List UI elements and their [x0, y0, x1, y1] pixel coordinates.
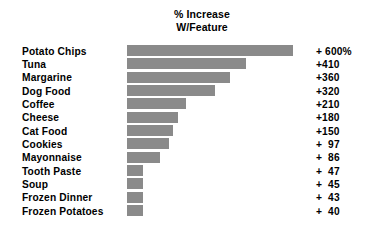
chart-row: Mayonnaise+ 86 — [0, 151, 376, 164]
bar-track — [127, 44, 307, 57]
chart-row: Frozen Potatoes+ 40 — [0, 204, 376, 217]
value-label: + 97 — [316, 139, 340, 150]
bar-track — [127, 204, 307, 217]
category-label: Frozen Dinner — [22, 192, 92, 203]
bar — [127, 205, 143, 216]
chart-row: Tuna+410 — [0, 57, 376, 70]
chart-row: Margarine+360 — [0, 71, 376, 84]
chart-row: Cheese+180 — [0, 111, 376, 124]
bar-track — [127, 84, 307, 97]
category-label: Cookies — [22, 139, 63, 150]
chart-title: % Increase W/Feature — [0, 8, 376, 34]
bar — [127, 178, 143, 189]
category-label: Tooth Paste — [22, 165, 81, 176]
bar — [127, 192, 143, 203]
value-label: +360 — [316, 72, 340, 83]
category-label: Cat Food — [22, 125, 67, 136]
category-label: Cheese — [22, 112, 59, 123]
bar-track — [127, 97, 307, 110]
chart-row: Frozen Dinner+ 43 — [0, 191, 376, 204]
bar-track — [127, 124, 307, 137]
bar — [127, 112, 178, 123]
value-label: +150 — [316, 125, 340, 136]
category-label: Potato Chips — [22, 45, 87, 56]
bar — [127, 85, 215, 96]
chart-rows: Potato Chips+ 600%Tuna+410Margarine+360D… — [0, 44, 376, 217]
bar-track — [127, 177, 307, 190]
bar-track — [127, 57, 307, 70]
chart-row: Coffee+210 — [0, 97, 376, 110]
chart-row: Soup+ 45 — [0, 177, 376, 190]
value-label: +320 — [316, 85, 340, 96]
value-label: +410 — [316, 59, 340, 70]
bar-track — [127, 137, 307, 150]
bar — [127, 165, 143, 176]
value-label: +180 — [316, 112, 340, 123]
bar — [127, 152, 160, 163]
value-label: + 40 — [316, 205, 340, 216]
bar-chart-figure: % Increase W/Feature Potato Chips+ 600%T… — [0, 0, 376, 242]
category-label: Margarine — [22, 72, 72, 83]
bar-track — [127, 191, 307, 204]
chart-row: Cat Food+150 — [0, 124, 376, 137]
chart-title-line-1: % Increase — [28, 8, 376, 21]
bar — [127, 58, 246, 69]
bar — [127, 125, 173, 136]
value-label: +210 — [316, 99, 340, 110]
category-label: Mayonnaise — [22, 152, 82, 163]
chart-row: Tooth Paste+ 47 — [0, 164, 376, 177]
bar-track — [127, 111, 307, 124]
bar-track — [127, 164, 307, 177]
bar-track — [127, 71, 307, 84]
chart-row: Dog Food+320 — [0, 84, 376, 97]
value-label: + 47 — [316, 165, 340, 176]
value-label: + 45 — [316, 179, 340, 190]
bar-track — [127, 151, 307, 164]
category-label: Frozen Potatoes — [22, 205, 104, 216]
value-label: + 43 — [316, 192, 340, 203]
chart-title-line-2: W/Feature — [28, 21, 376, 34]
bar — [127, 72, 230, 83]
bar — [127, 45, 293, 56]
bar — [127, 98, 186, 109]
chart-row: Cookies+ 97 — [0, 137, 376, 150]
category-label: Tuna — [22, 59, 46, 70]
value-label: + 86 — [316, 152, 340, 163]
value-label: + 600% — [316, 45, 352, 56]
category-label: Coffee — [22, 99, 55, 110]
bar — [127, 138, 169, 149]
category-label: Dog Food — [22, 85, 71, 96]
chart-row: Potato Chips+ 600% — [0, 44, 376, 57]
category-label: Soup — [22, 179, 48, 190]
